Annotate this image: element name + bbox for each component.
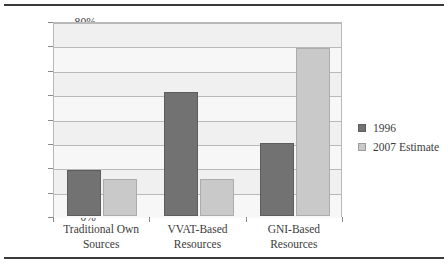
x-axis-tick-mark bbox=[342, 217, 343, 222]
bar-2-1 bbox=[103, 179, 137, 216]
bottom-divider-rule bbox=[4, 257, 444, 259]
legend-item: 2007 Estimate bbox=[358, 137, 439, 156]
chart-legend: 19962007 Estimate bbox=[358, 118, 439, 156]
bar-1-3 bbox=[260, 143, 294, 216]
x-axis-category-label-line: VVAT-Based bbox=[149, 222, 245, 237]
bar-1-2 bbox=[164, 92, 198, 216]
x-axis-category-label-line: Resources bbox=[246, 237, 342, 252]
bar-1-1 bbox=[67, 170, 101, 216]
x-axis-category-label: GNI-BasedResources bbox=[246, 222, 342, 252]
legend-item: 1996 bbox=[358, 118, 439, 137]
x-axis-category-label-line: GNI-Based bbox=[246, 222, 342, 237]
x-axis-category-label: VVAT-BasedResources bbox=[149, 222, 245, 252]
x-axis-category-label: Traditional OwnSources bbox=[53, 222, 149, 252]
legend-item-label: 2007 Estimate bbox=[373, 141, 439, 153]
top-divider-rule bbox=[4, 4, 444, 6]
x-axis-category-label-line: Traditional Own bbox=[53, 222, 149, 237]
series-1-swatch bbox=[358, 124, 366, 132]
x-axis-category-label-line: Resources bbox=[149, 237, 245, 252]
chart-figure: 80%70%60%50%40%30%20%10%0% Traditional O… bbox=[0, 0, 448, 269]
bar-2-3 bbox=[296, 48, 330, 216]
x-axis-category-label-line: Sources bbox=[53, 237, 149, 252]
series-2-swatch bbox=[358, 143, 366, 151]
gridline bbox=[54, 23, 341, 24]
bar-2-2 bbox=[200, 179, 234, 216]
legend-item-label: 1996 bbox=[373, 122, 396, 134]
plot-area bbox=[53, 22, 342, 217]
plot-band bbox=[54, 23, 341, 47]
